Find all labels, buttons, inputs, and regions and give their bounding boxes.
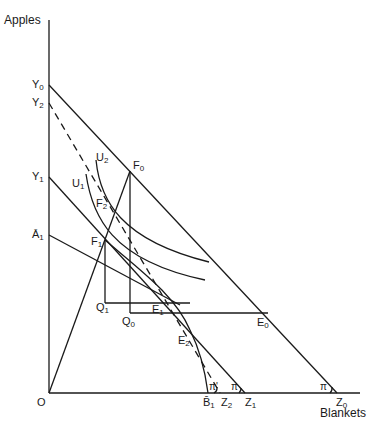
budget-line-y1-z1 bbox=[49, 177, 245, 393]
label-z2: Z2 bbox=[221, 397, 232, 410]
label-z1: Z1 bbox=[245, 397, 256, 410]
label-q0: Q0 bbox=[122, 316, 135, 329]
y-axis-label: Apples bbox=[4, 14, 41, 26]
label-f0: F0 bbox=[133, 160, 144, 173]
label-e0: E0 bbox=[257, 317, 269, 330]
label-u2: U2 bbox=[96, 152, 108, 165]
trade-diagram bbox=[0, 0, 379, 437]
angle-pi-0: π bbox=[320, 382, 327, 392]
angle-arc-z1 bbox=[239, 388, 241, 393]
label-z0: Z0 bbox=[336, 397, 347, 410]
angle-pi-1: π bbox=[231, 382, 238, 392]
label-q1: Q1 bbox=[96, 302, 109, 315]
angle-arc-z0 bbox=[330, 387, 332, 393]
label-y0: Y0 bbox=[32, 79, 44, 92]
label-b1: B̄1 bbox=[203, 397, 215, 410]
label-e2: E2 bbox=[178, 335, 190, 348]
origin-label: O bbox=[37, 397, 46, 408]
label-y1: Y1 bbox=[32, 171, 44, 184]
label-a1: Ā1 bbox=[32, 229, 44, 242]
angle-pi-prime: π' bbox=[209, 382, 218, 392]
label-y2: Y2 bbox=[32, 97, 44, 110]
label-e1: E1 bbox=[152, 304, 164, 317]
label-f1: F1 bbox=[91, 236, 102, 249]
label-f2: F2 bbox=[96, 198, 107, 211]
ray-o-f0 bbox=[49, 171, 130, 393]
label-u1: U1 bbox=[72, 178, 84, 191]
